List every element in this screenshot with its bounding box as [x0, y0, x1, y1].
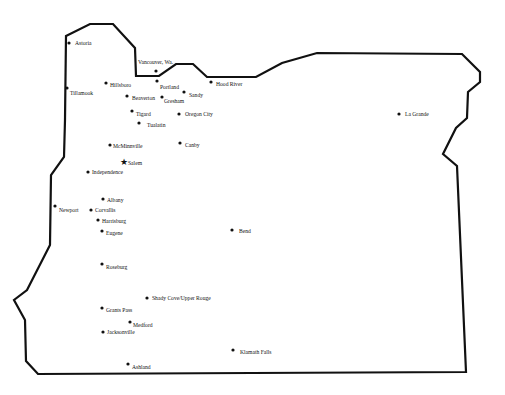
- city-label: Eugene: [106, 230, 123, 236]
- city-independence: Independence: [86, 169, 123, 175]
- city-canby: Canby: [178, 141, 199, 148]
- city-hood-river: Hood River: [209, 80, 242, 87]
- city-label: Sandy: [189, 92, 203, 98]
- city-label: Jacksonville: [107, 329, 135, 335]
- city-sandy: Sandy: [182, 90, 203, 98]
- city-label: Roseburg: [106, 264, 128, 270]
- city-label: Oregon City: [185, 111, 213, 117]
- state-border: [14, 24, 480, 374]
- city-tillamook: Tillamook: [65, 86, 93, 96]
- city-label: Tualatin: [147, 122, 166, 128]
- city-label: Tillamook: [70, 90, 93, 96]
- city-eugene: Eugene: [100, 229, 123, 236]
- city-label: La Grande: [405, 111, 429, 117]
- city-ashland: Ashland: [126, 362, 150, 370]
- city-label: Salem: [128, 160, 143, 166]
- city-newport: Newport: [53, 204, 79, 213]
- city-label: McMinnville: [113, 143, 143, 149]
- city-label: Portland: [160, 84, 179, 90]
- city-label: Shady Cove/Upper Rouge: [152, 295, 211, 301]
- city-medford: Medford: [128, 320, 152, 328]
- city-dot-icon: [137, 121, 140, 124]
- city-markers: AstoriaTillamookVancouver, Wa.HillsboroP…: [53, 40, 429, 370]
- city-dot-icon: [177, 112, 180, 115]
- city-corvallis: Corvallis: [89, 207, 115, 213]
- city-label: Newport: [59, 207, 79, 213]
- city-dot-icon: [128, 320, 131, 323]
- city-dot-icon: [125, 94, 128, 97]
- city-dot-icon: [397, 112, 400, 115]
- city-label: Beaverton: [132, 95, 155, 101]
- oregon-map: AstoriaTillamookVancouver, Wa.HillsboroP…: [0, 0, 505, 395]
- city-klamath-falls: Klamath Falls: [231, 348, 271, 355]
- city-salem: ★Salem: [120, 157, 143, 167]
- city-dot-icon: [100, 306, 103, 309]
- city-la-grande: La Grande: [397, 111, 429, 117]
- city-label: Harrisburg: [102, 218, 126, 224]
- city-mcminnville: McMinnville: [108, 143, 143, 149]
- city-dot-icon: [65, 86, 68, 89]
- city-hillsboro: Hillsboro: [104, 81, 131, 88]
- city-dot-icon: [96, 218, 99, 221]
- city-label: Hood River: [216, 81, 242, 87]
- city-label: Tigard: [136, 111, 151, 117]
- city-beaverton: Beaverton: [125, 94, 155, 101]
- city-bend: Bend: [230, 228, 251, 234]
- city-label: Astoria: [75, 40, 92, 46]
- city-jacksonville: Jacksonville: [101, 329, 135, 335]
- city-dot-icon: [209, 80, 212, 83]
- city-dot-icon: [154, 69, 157, 72]
- city-label: Albany: [107, 197, 124, 203]
- city-dot-icon: [178, 141, 181, 144]
- city-label: Klamath Falls: [240, 349, 272, 355]
- city-dot-icon: [104, 81, 107, 84]
- city-portland: Portland: [155, 79, 179, 90]
- city-shady-cove-upper-rouge: Shady Cove/Upper Rouge: [145, 295, 211, 301]
- city-tigard: Tigard: [130, 109, 151, 117]
- capital-star-icon: ★: [120, 157, 128, 167]
- city-dot-icon: [100, 262, 103, 265]
- city-label: Independence: [92, 169, 124, 175]
- city-dot-icon: [155, 79, 158, 82]
- city-dot-icon: [100, 229, 103, 232]
- city-label: Medford: [133, 322, 153, 328]
- city-oregon-city: Oregon City: [177, 111, 213, 117]
- city-dot-icon: [182, 90, 185, 93]
- city-dot-icon: [101, 330, 104, 333]
- city-dot-icon: [145, 296, 148, 299]
- city-albany: Albany: [101, 197, 123, 203]
- city-dot-icon: [89, 208, 92, 211]
- city-label: Corvallis: [95, 207, 116, 213]
- city-dot-icon: [126, 362, 129, 365]
- city-label: Vancouver, Wa.: [138, 59, 174, 65]
- city-tualatin: Tualatin: [137, 121, 165, 128]
- city-label: Canby: [185, 142, 200, 148]
- city-grants-pass: Grants Pass: [100, 306, 132, 313]
- city-gresham: Gresham: [160, 95, 184, 104]
- city-dot-icon: [67, 41, 70, 44]
- city-astoria: Astoria: [67, 40, 92, 46]
- city-label: Grants Pass: [106, 307, 132, 313]
- city-dot-icon: [101, 197, 104, 200]
- city-label: Gresham: [164, 98, 185, 104]
- city-dot-icon: [108, 143, 111, 146]
- city-roseburg: Roseburg: [100, 262, 127, 270]
- city-dot-icon: [86, 170, 89, 173]
- city-dot-icon: [230, 228, 233, 231]
- city-label: Hillsboro: [110, 82, 131, 88]
- city-dot-icon: [231, 348, 234, 351]
- city-harrisburg: Harrisburg: [96, 218, 126, 224]
- city-dot-icon: [130, 109, 133, 112]
- city-label: Ashland: [132, 364, 151, 370]
- city-dot-icon: [53, 204, 56, 207]
- city-label: Bend: [239, 228, 251, 234]
